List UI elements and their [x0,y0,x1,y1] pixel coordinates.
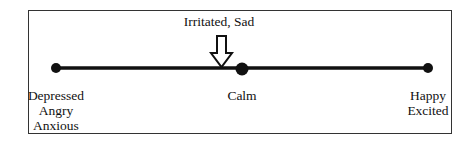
left-label-line: Anxious [22,118,90,133]
left-label: Depressed Angry Anxious [22,88,90,133]
down-arrow-icon [211,36,232,67]
right-label-line: Excited [398,103,458,118]
right-endpoint-dot [423,63,433,73]
middle-calm-dot [236,63,249,76]
right-label: Happy Excited [398,88,458,118]
marker-label: Irritated, Sad [160,14,278,29]
right-label-line: Happy [398,88,458,103]
middle-label-line: Calm [222,88,262,103]
middle-label: Calm [222,88,262,103]
left-label-line: Angry [22,103,90,118]
left-label-line: Depressed [22,88,90,103]
left-endpoint-dot [51,63,61,73]
